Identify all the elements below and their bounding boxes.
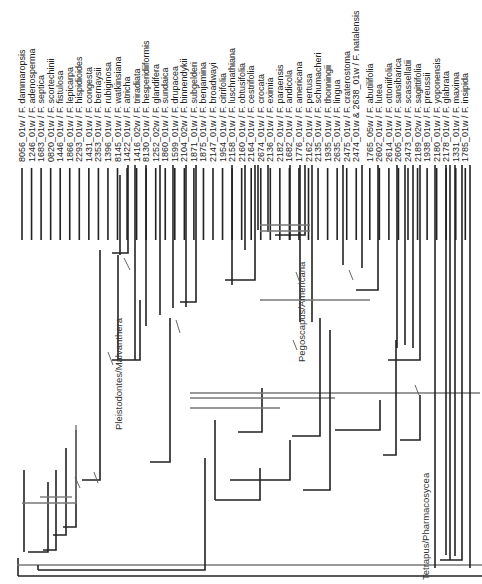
- taxon-label: 2180_01w / F. yoponensis: [432, 57, 442, 162]
- taxon-label: 1938_01w / F. preussii: [422, 72, 432, 162]
- clade-label: Pleistodontes/Malvanthera: [113, 317, 124, 430]
- taxon-label: 1331_01w / F. maxima: [451, 72, 461, 162]
- tip-branches: [22, 168, 465, 240]
- taxon-label: 2135_01w / F. schumacheri: [313, 52, 323, 162]
- taxon-label: 2182_01w / F. paraensis: [275, 64, 285, 162]
- taxon-label: 1776_01w / F. americana: [294, 61, 304, 162]
- taxon-label: 2602_01w / F. lutea: [374, 84, 384, 162]
- taxon-label: 8056_01w / F. dammaropsis: [17, 49, 27, 162]
- taxon-label: 1252_02w / F. glandifera: [151, 64, 161, 162]
- taxon-label: 1396_01w / F. rubiginosa: [103, 62, 113, 162]
- taxon-label: 2474_01w & 2638_01w / F. natalensis: [351, 10, 361, 162]
- taxon-label: 2158_01w / F. luschnathiana: [227, 48, 237, 162]
- taxon-label: 1866_01w / F. lepicarpa: [65, 67, 75, 162]
- taxon-label: 1422_01w / F. atricha: [122, 76, 132, 162]
- taxon-label: 2164_01w / F. cestrifolia: [246, 65, 256, 162]
- taxon-label: 2605_01w / F. sansibarica: [393, 58, 403, 162]
- taxon-label: 1416_02w / F. triradiata: [132, 68, 142, 162]
- taxon-label: 2189_02w / F. sagittifolia: [413, 63, 423, 162]
- taxon-label: 1860_01w / F. sundaica: [160, 67, 170, 162]
- taxon-label: 1682_01w / F. andicola: [284, 70, 294, 162]
- taxon-label: 2635_01w / F. lingua: [332, 79, 342, 162]
- node-arrows: [75, 258, 419, 488]
- taxon-label: 1765_05w / F. abutilifolia: [365, 63, 375, 162]
- clade-label: Pegoscapus/Americana: [296, 261, 307, 362]
- taxon-label: 2293_01w / F. hispidioides: [74, 56, 84, 162]
- taxon-label: 2178_01w / F. glabrata: [441, 71, 451, 162]
- internal-branches: [17, 165, 482, 576]
- taxon-label: 1683_01w / F. septica: [36, 75, 46, 162]
- taxon-label: 2147_01w / F. broadwayi: [208, 62, 218, 162]
- taxon-label: 1871_01w / F. subgelderi: [189, 62, 199, 162]
- clade-label: Tetrapus/Pharmacosycea: [420, 472, 431, 580]
- taxon-label: 1431_01w / F. congesta: [84, 67, 94, 162]
- taxon-label: 0820_01w / F. scortechinii: [46, 58, 56, 162]
- taxon-label: 8145_01w / F. watkinsiana: [113, 56, 123, 162]
- taxon-label: 2136_01w / F. eximia: [265, 77, 275, 162]
- taxon-label: 8130_01w / F. hesperidiiformis: [141, 40, 151, 162]
- taxon-label: 2162_01w / F. pertusa: [304, 73, 314, 162]
- taxon-label: 2614_01w / F. ottoniifolia: [384, 63, 394, 162]
- taxon-label: 2160_01w / F. obtusifolia: [237, 63, 247, 162]
- taxon-label: 2674_01w / F. crocata: [256, 74, 266, 162]
- taxon-labels: 8056_01w / F. dammaropsis1246_01w / F. a…: [17, 10, 470, 162]
- taxon-label: 1954_01w / F. citrifolia: [218, 73, 228, 162]
- taxon-label: 1246_01w / F. adenosperma: [27, 48, 37, 162]
- phylogenetic-tree: 8056_01w / F. dammaropsis1246_01w / F. a…: [0, 0, 482, 584]
- taxon-label: 2104_02w / F. binnendykii: [179, 58, 189, 162]
- taxon-label: 1785_01w / F. insipida: [460, 73, 470, 162]
- taxon-label: 1599_01w / F. drupacea: [170, 66, 180, 162]
- taxon-label: 2475_01w / F. craterostoma: [342, 51, 352, 162]
- taxon-label: 1875_01w / F. benjamina: [198, 62, 208, 162]
- taxon-label: 1446_01w / F. fistulosa: [55, 70, 65, 162]
- taxon-label: 2353_01w / F. bernaysii: [93, 67, 103, 162]
- taxon-label: 2473_01w / F. scassellatii: [403, 60, 413, 162]
- taxon-label: 1935_01w / F. thonningii: [323, 65, 333, 162]
